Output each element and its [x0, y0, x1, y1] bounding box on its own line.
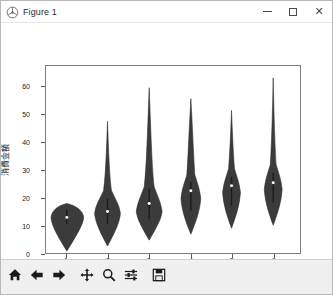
x-tick-label: 1 [64, 257, 68, 259]
arrow-left-icon [30, 268, 44, 286]
close-icon: ✕ [314, 6, 323, 17]
figure-area: 消費金額 0 10 20 30 40 50 60 [1, 23, 332, 259]
configure-subplots-button[interactable] [120, 266, 142, 288]
navigation-toolbar [1, 259, 332, 294]
x-tick-label: 5 [230, 257, 234, 259]
home-icon [8, 268, 22, 286]
y-tick-label: 60 [22, 83, 30, 90]
close-button[interactable]: ✕ [306, 1, 332, 22]
y-tick-label: 20 [22, 195, 30, 202]
maximize-button[interactable] [280, 1, 306, 22]
home-button[interactable] [4, 266, 26, 288]
maximize-icon [289, 8, 297, 16]
figure-window: Figure 1 ✕ 消費金額 0 10 20 30 40 50 [0, 0, 333, 295]
y-tick-label: 10 [22, 223, 30, 230]
violin-plot [46, 66, 300, 253]
magnifier-icon [102, 268, 116, 286]
figure-canvas[interactable]: 消費金額 0 10 20 30 40 50 60 [1, 23, 332, 259]
y-tick-label: 50 [22, 111, 30, 118]
floppy-disk-icon [152, 268, 166, 286]
minimize-button[interactable] [254, 1, 280, 22]
x-tick-label: 3 [147, 257, 151, 259]
pan-button[interactable] [76, 266, 98, 288]
y-tick-mark [41, 254, 45, 255]
y-tick-label: 40 [22, 139, 30, 146]
y-tick-label: 0 [26, 251, 30, 258]
arrow-right-icon [52, 268, 66, 286]
move-icon [80, 268, 94, 286]
zoom-button[interactable] [98, 266, 120, 288]
y-axis-label: 消費金額 [1, 65, 15, 254]
forward-button[interactable] [48, 266, 70, 288]
plot-axes[interactable] [45, 65, 301, 254]
y-tick-label: 30 [22, 167, 30, 174]
sliders-icon [124, 268, 138, 286]
x-tick-label: 2 [106, 257, 110, 259]
x-tick-label: 6 [272, 257, 276, 259]
back-button[interactable] [26, 266, 48, 288]
x-tick-label: 4 [189, 257, 193, 259]
window-controls: ✕ [254, 1, 332, 22]
title-bar: Figure 1 ✕ [1, 1, 332, 23]
minimize-icon [263, 11, 272, 12]
save-button[interactable] [148, 266, 170, 288]
matplotlib-icon [6, 5, 19, 18]
window-title: Figure 1 [23, 7, 57, 17]
